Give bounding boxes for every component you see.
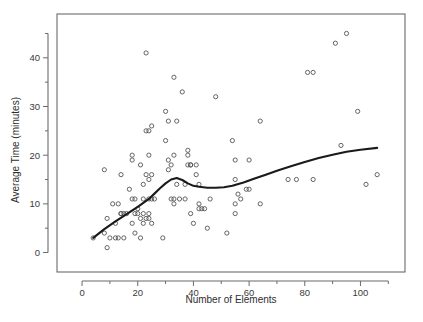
y-axis-tick-label: 40 [29,52,40,63]
x-axis-tick-label: 0 [79,287,84,298]
x-axis-tick-label: 100 [353,287,369,298]
y-axis-tick-label: 30 [29,101,40,112]
y-axis-tick-label: 10 [29,198,40,209]
figure-background [0,0,423,322]
y-axis-tick-label: 0 [35,247,40,258]
x-axis-title: Number of Elements [185,294,276,305]
scatter-plot-figure: 010203040 020406080100 Number of Element… [0,0,423,322]
x-axis-tick-label: 20 [132,287,143,298]
y-axis-title: Average Time (minutes) [10,97,21,203]
plot-canvas: 010203040 020406080100 Number of Element… [0,0,423,322]
x-axis-tick-label: 80 [299,287,310,298]
y-axis-tick-label: 20 [29,150,40,161]
